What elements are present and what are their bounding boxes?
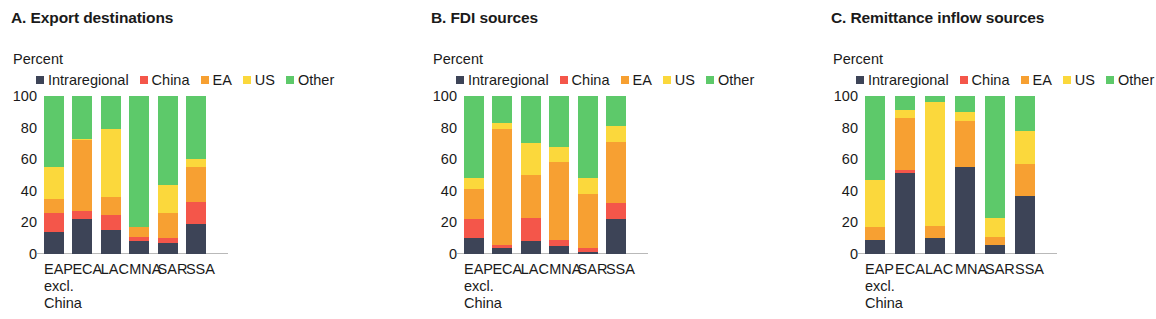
legend-entry-intraregional[interactable]: Intraregional [456,73,549,88]
bar-segment-ea[interactable] [865,227,885,240]
bar-segment-other[interactable] [186,96,206,159]
bar-segment-intraregional[interactable] [186,224,206,254]
bar-segment-intraregional[interactable] [492,248,512,254]
bar-segment-china[interactable] [521,218,541,242]
bar-column[interactable] [101,96,121,254]
bar-segment-us[interactable] [101,129,121,197]
bar-segment-intraregional[interactable] [925,238,945,254]
stacked-bar[interactable] [158,96,178,254]
bar-segment-us[interactable] [1015,131,1035,164]
legend-entry-ea[interactable]: EA [621,73,652,88]
legend-entry-ea[interactable]: EA [1021,73,1052,88]
bar-segment-us[interactable] [521,143,541,175]
bar-segment-china[interactable] [101,215,121,231]
stacked-bar[interactable] [985,96,1005,254]
bar-segment-ea[interactable] [578,194,598,248]
bar-segment-us[interactable] [186,159,206,167]
bar-column[interactable] [985,96,1005,254]
bar-segment-china[interactable] [186,202,206,224]
legend-entry-other[interactable]: Other [706,73,754,88]
bar-segment-intraregional[interactable] [955,167,975,254]
bar-segment-ea[interactable] [101,197,121,214]
bar-segment-china[interactable] [606,203,626,219]
bar-column[interactable] [578,96,598,254]
stacked-bar[interactable] [895,96,915,254]
legend-entry-china[interactable]: China [560,73,610,88]
bar-segment-ea[interactable] [44,199,64,213]
bar-segment-other[interactable] [492,96,512,123]
bar-segment-ea[interactable] [186,167,206,202]
bar-segment-china[interactable] [464,219,484,238]
bar-segment-intraregional[interactable] [895,173,915,254]
bar-segment-other[interactable] [72,96,92,139]
bar-segment-china[interactable] [72,211,92,219]
bar-segment-ea[interactable] [1015,164,1035,196]
bar-column[interactable] [549,96,569,254]
legend-entry-china[interactable]: China [960,73,1010,88]
bar-segment-ea[interactable] [955,121,975,167]
bar-segment-us[interactable] [895,110,915,118]
legend-entry-us[interactable]: US [1063,73,1095,88]
stacked-bar[interactable] [1015,96,1035,254]
bar-segment-intraregional[interactable] [865,240,885,254]
bar-column[interactable] [492,96,512,254]
bar-column[interactable] [186,96,206,254]
bar-segment-us[interactable] [549,147,569,163]
stacked-bar[interactable] [578,96,598,254]
bar-segment-intraregional[interactable] [1015,196,1035,254]
legend-entry-us[interactable]: US [243,73,275,88]
bar-segment-intraregional[interactable] [129,241,149,254]
bar-segment-intraregional[interactable] [464,238,484,254]
stacked-bar[interactable] [549,96,569,254]
bar-segment-other[interactable] [158,96,178,184]
bar-segment-ea[interactable] [985,237,1005,245]
bar-segment-intraregional[interactable] [578,252,598,254]
bar-segment-ea[interactable] [464,189,484,219]
bar-segment-intraregional[interactable] [72,219,92,254]
bar-column[interactable] [865,96,885,254]
bar-column[interactable] [72,96,92,254]
stacked-bar[interactable] [186,96,206,254]
bar-column[interactable] [606,96,626,254]
bar-segment-other[interactable] [129,96,149,227]
bar-segment-us[interactable] [955,112,975,121]
bar-segment-china[interactable] [44,213,64,232]
bar-segment-ea[interactable] [492,129,512,244]
bar-segment-us[interactable] [925,102,945,225]
stacked-bar[interactable] [44,96,64,254]
bar-segment-intraregional[interactable] [985,245,1005,254]
bar-segment-us[interactable] [865,180,885,227]
bar-segment-us[interactable] [606,126,626,142]
bar-segment-intraregional[interactable] [549,246,569,254]
bar-segment-ea[interactable] [72,140,92,211]
bar-column[interactable] [464,96,484,254]
bar-segment-other[interactable] [865,96,885,180]
bar-segment-other[interactable] [606,96,626,126]
legend-entry-ea[interactable]: EA [201,73,232,88]
stacked-bar[interactable] [521,96,541,254]
legend-entry-china[interactable]: China [140,73,190,88]
bar-segment-intraregional[interactable] [101,230,121,254]
stacked-bar[interactable] [101,96,121,254]
bar-column[interactable] [955,96,975,254]
bar-segment-other[interactable] [44,96,64,167]
bar-segment-intraregional[interactable] [44,232,64,254]
bar-column[interactable] [44,96,64,254]
legend-entry-us[interactable]: US [663,73,695,88]
stacked-bar[interactable] [129,96,149,254]
stacked-bar[interactable] [606,96,626,254]
bar-segment-us[interactable] [158,185,178,213]
bar-segment-other[interactable] [101,96,121,129]
bar-segment-us[interactable] [44,167,64,199]
bar-segment-ea[interactable] [895,118,915,170]
stacked-bar[interactable] [464,96,484,254]
bar-segment-other[interactable] [549,96,569,147]
bar-segment-us[interactable] [985,218,1005,237]
bar-column[interactable] [1015,96,1035,254]
stacked-bar[interactable] [925,96,945,254]
bar-column[interactable] [129,96,149,254]
stacked-bar[interactable] [72,96,92,254]
bar-segment-other[interactable] [578,96,598,178]
bar-segment-ea[interactable] [158,213,178,238]
bar-segment-intraregional[interactable] [521,241,541,254]
